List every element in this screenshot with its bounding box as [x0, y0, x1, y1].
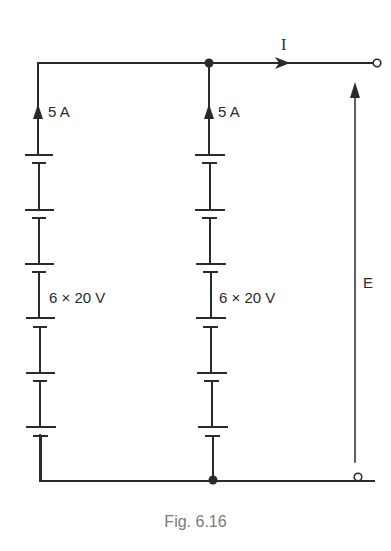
top-wire — [38, 63, 374, 146]
left-current-arrow-icon — [33, 104, 43, 119]
left-battery-bank — [26, 63, 55, 481]
output-voltage-label: E — [363, 274, 373, 291]
middle-battery-bank — [196, 63, 227, 481]
bottom-junction-dot — [209, 476, 218, 485]
circuit-diagram — [0, 0, 391, 551]
top-junction-dot — [205, 59, 214, 68]
middle-current-arrow-icon — [204, 104, 214, 119]
left-branch-cells-label: 6 × 20 V — [49, 289, 105, 306]
middle-branch-cells-label: 6 × 20 V — [219, 289, 275, 306]
figure-caption: Fig. 6.16 — [0, 513, 391, 531]
top-terminal — [373, 59, 381, 67]
bottom-terminal — [354, 473, 362, 481]
middle-branch-current-label: 5 A — [218, 103, 240, 120]
voltage-arrow-head-icon — [350, 82, 360, 98]
left-branch-current-label: 5 A — [48, 103, 70, 120]
bottom-wire — [40, 435, 374, 481]
output-current-label: I — [281, 36, 286, 54]
